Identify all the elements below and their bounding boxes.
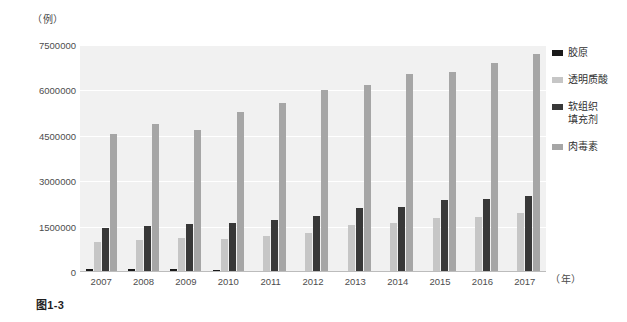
y-tick-label: 7500000 <box>4 40 76 51</box>
x-axis-tick-labels: 2007200820092010201120122013201420152016… <box>80 276 546 287</box>
x-tick-label: 2009 <box>165 276 207 287</box>
legend-label: 透明质酸 <box>568 73 608 86</box>
x-tick-label: 2010 <box>207 276 249 287</box>
bar[interactable] <box>533 54 540 272</box>
bar[interactable] <box>178 238 185 272</box>
y-tick-label: 0 <box>4 267 76 278</box>
figure-caption: 图1-3 <box>36 296 64 312</box>
y-tick-label: 3000000 <box>4 176 76 187</box>
y-axis-unit-label: （例） <box>32 11 64 26</box>
x-tick-label: 2013 <box>334 276 376 287</box>
bar[interactable] <box>491 63 498 272</box>
bar[interactable] <box>475 217 482 272</box>
bar[interactable] <box>441 200 448 272</box>
bar[interactable] <box>136 240 143 272</box>
y-axis-tick-labels: 015000003000000450000060000007500000 <box>0 45 76 272</box>
bar-group <box>334 45 376 272</box>
legend-swatch-icon <box>552 77 563 83</box>
bar[interactable] <box>356 208 363 272</box>
bar-group <box>419 45 461 272</box>
bar[interactable] <box>94 242 101 272</box>
bar[interactable] <box>364 85 371 272</box>
bar[interactable] <box>271 220 278 272</box>
x-tick-label: 2016 <box>461 276 503 287</box>
x-tick-label: 2007 <box>80 276 122 287</box>
legend-item[interactable]: 胶原 <box>552 46 627 59</box>
legend-item[interactable]: 软组织 填充剂 <box>552 100 627 126</box>
axis-baseline <box>80 271 546 272</box>
x-tick-label: 2015 <box>419 276 461 287</box>
bar[interactable] <box>152 124 159 272</box>
bar[interactable] <box>237 112 244 272</box>
bar-group <box>122 45 164 272</box>
bar[interactable] <box>144 226 151 272</box>
bar[interactable] <box>483 199 490 272</box>
bar[interactable] <box>348 225 355 272</box>
chart-legend: 胶原透明质酸软组织 填充剂肉毒素 <box>552 46 627 167</box>
bar[interactable] <box>186 224 193 272</box>
legend-label: 胶原 <box>568 46 588 59</box>
legend-item[interactable]: 透明质酸 <box>552 73 627 86</box>
legend-swatch-icon <box>552 50 563 56</box>
bar[interactable] <box>398 207 405 272</box>
bar-group <box>377 45 419 272</box>
bar[interactable] <box>229 223 236 272</box>
x-tick-label: 2012 <box>292 276 334 287</box>
bar[interactable] <box>305 233 312 272</box>
bar[interactable] <box>194 130 201 272</box>
legend-swatch-icon <box>552 144 563 150</box>
y-tick-label: 1500000 <box>4 221 76 232</box>
bar-group <box>504 45 546 272</box>
x-axis-unit-label: （年） <box>550 271 582 286</box>
x-tick-label: 2011 <box>249 276 291 287</box>
bar-group <box>207 45 249 272</box>
legend-label: 肉毒素 <box>568 140 598 153</box>
bar-group <box>461 45 503 272</box>
figure-container: （例） 015000003000000450000060000007500000… <box>0 0 627 322</box>
plot-area <box>80 45 546 272</box>
y-tick-label: 4500000 <box>4 130 76 141</box>
bar-group <box>249 45 291 272</box>
bar[interactable] <box>525 196 532 272</box>
bar-groups <box>80 45 546 272</box>
bar[interactable] <box>321 90 328 272</box>
y-tick-label: 6000000 <box>4 85 76 96</box>
x-tick-label: 2014 <box>377 276 419 287</box>
x-tick-label: 2017 <box>504 276 546 287</box>
bar[interactable] <box>449 72 456 272</box>
bar[interactable] <box>110 134 117 272</box>
bar[interactable] <box>433 218 440 272</box>
bar[interactable] <box>102 228 109 272</box>
bar[interactable] <box>221 239 228 272</box>
x-tick-label: 2008 <box>122 276 164 287</box>
bar[interactable] <box>406 74 413 272</box>
legend-swatch-icon <box>552 104 563 110</box>
bar[interactable] <box>263 236 270 272</box>
legend-item[interactable]: 肉毒素 <box>552 140 627 153</box>
bar[interactable] <box>313 216 320 272</box>
bar[interactable] <box>390 223 397 272</box>
bar-group <box>80 45 122 272</box>
bar[interactable] <box>517 213 524 272</box>
bar[interactable] <box>279 103 286 272</box>
legend-label: 软组织 填充剂 <box>568 100 598 126</box>
bar-group <box>292 45 334 272</box>
bar-group <box>165 45 207 272</box>
